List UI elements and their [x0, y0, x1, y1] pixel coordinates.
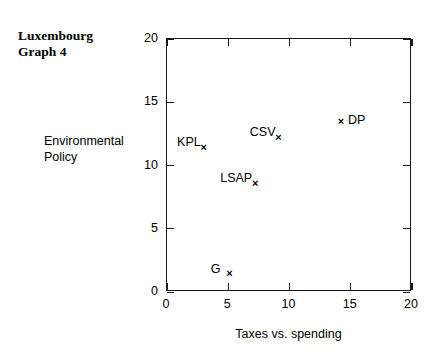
x-tick-bottom-10 — [289, 283, 290, 290]
y-tick-left-0 — [167, 292, 174, 293]
x-tick-top-20 — [411, 39, 412, 46]
y-axis-title-line-2: Policy — [44, 149, 124, 165]
x-axis-title: Taxes vs. spending — [166, 327, 411, 341]
chart-title: Luxembourg Graph 4 — [18, 28, 93, 60]
x-tick-label-0: 0 — [146, 297, 186, 311]
y-tick-left-10 — [167, 165, 174, 166]
y-tick-right-10 — [403, 165, 410, 166]
y-tick-label-5: 5 — [118, 221, 158, 235]
plot-area: KPL×CSV×DP×LSAP×G× — [166, 38, 411, 291]
data-point-label-csv: CSV — [250, 126, 276, 139]
x-tick-top-5 — [228, 39, 229, 46]
y-tick-right-20 — [403, 39, 410, 40]
cross-marker-icon: × — [251, 178, 259, 188]
y-tick-left-5 — [167, 228, 174, 229]
data-point-label-lsap: LSAP — [220, 172, 252, 185]
x-tick-top-0 — [166, 39, 167, 46]
data-point-label-dp: DP — [348, 114, 365, 127]
cross-marker-icon: × — [200, 142, 208, 152]
cross-marker-icon: × — [225, 268, 233, 278]
x-tick-bottom-0 — [166, 283, 167, 290]
x-tick-top-15 — [350, 39, 351, 46]
x-tick-label-15: 15 — [330, 297, 370, 311]
data-point-label-kpl: KPL — [177, 136, 201, 149]
x-tick-label-10: 10 — [269, 297, 309, 311]
x-tick-bottom-20 — [411, 283, 412, 290]
x-tick-bottom-5 — [228, 283, 229, 290]
data-point-label-g: G — [211, 263, 221, 276]
y-axis-title: Environmental Policy — [44, 133, 124, 165]
cross-marker-icon: × — [337, 116, 345, 126]
y-tick-right-0 — [403, 292, 410, 293]
y-tick-left-20 — [167, 39, 174, 40]
y-tick-right-5 — [403, 228, 410, 229]
y-axis-title-line-1: Environmental — [44, 133, 124, 149]
y-tick-label-15: 15 — [118, 94, 158, 108]
y-tick-left-15 — [167, 102, 174, 103]
x-tick-top-10 — [289, 39, 290, 46]
x-tick-label-5: 5 — [207, 297, 247, 311]
y-tick-label-10: 10 — [118, 158, 158, 172]
chart-title-line-2: Graph 4 — [18, 44, 93, 60]
x-tick-bottom-15 — [350, 283, 351, 290]
chart-title-line-1: Luxembourg — [18, 28, 93, 44]
y-tick-label-20: 20 — [118, 31, 158, 45]
chart-page: Luxembourg Graph 4 Environmental Policy … — [0, 0, 439, 353]
y-tick-label-0: 0 — [118, 284, 158, 298]
y-tick-right-15 — [403, 102, 410, 103]
cross-marker-icon: × — [274, 132, 282, 142]
x-tick-label-20: 20 — [391, 297, 431, 311]
